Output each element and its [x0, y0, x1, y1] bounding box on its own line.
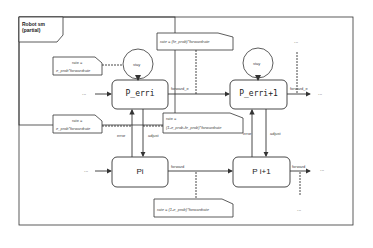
note-error-line2: e_prob*forwardrate [56, 126, 90, 131]
transition-adjust-1: adjust [148, 133, 159, 138]
transition-error-2: error [243, 131, 251, 136]
frame-title-line2: (partial) [22, 27, 45, 33]
ellipsis-left-bottom: ... [84, 167, 88, 173]
ellipsis-right-top: ... [318, 90, 322, 96]
state-p-erri: P_erri [112, 89, 168, 98]
stay-label-1: stay [133, 62, 140, 67]
note-top-rate: rate = (fe_prob)*forwardrate [160, 39, 209, 44]
note-stay-line2: e_prob*forwardrate [56, 68, 90, 73]
transition-forward-e-1: forward_e [171, 86, 189, 91]
state-pi-plus-1: P i+1 [233, 167, 290, 176]
transition-forward-2: forward [292, 164, 305, 169]
note-adjust-line2: (1-e_prob-fe_prob)*forwardrate [166, 125, 221, 130]
stay-label-2: stay [253, 61, 260, 66]
ellipsis-bottom-right: ... [297, 206, 301, 212]
state-pi: Pi [112, 167, 168, 176]
ellipsis-right-bottom: ... [320, 166, 324, 172]
note-bottom-rate: rate = (1-e_prob)*forwardrate [157, 207, 209, 212]
ellipsis-left-top: ... [82, 90, 86, 96]
note-error-line1: rate = [72, 118, 82, 123]
transition-forward-e-2: forward_e [290, 86, 308, 91]
frame-title: Robot sm (partial) [22, 21, 45, 33]
transition-adjust-2: adjust [270, 131, 281, 136]
transition-error-1: error [117, 133, 125, 138]
state-p-erri-plus-1: P_erri+1 [230, 89, 287, 98]
ellipsis-top-right: ... [294, 38, 298, 44]
transition-forward-1: forward [171, 164, 184, 169]
note-stay-line1: rate = [72, 60, 82, 65]
note-adjust-line1: rate = [166, 116, 176, 121]
